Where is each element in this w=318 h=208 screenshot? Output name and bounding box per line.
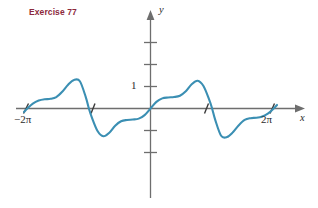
figure-background [0, 0, 318, 208]
y-tick-label-one: 1 [131, 79, 137, 91]
exercise-graph-figure [0, 0, 318, 208]
x-tick-label-neg-two-pi: −2π [14, 113, 31, 125]
y-axis-label: y [159, 4, 164, 15]
x-axis-label: x [300, 112, 305, 123]
x-tick-label-two-pi: 2π [261, 113, 272, 125]
exercise-title: Exercise 77 [29, 7, 77, 17]
